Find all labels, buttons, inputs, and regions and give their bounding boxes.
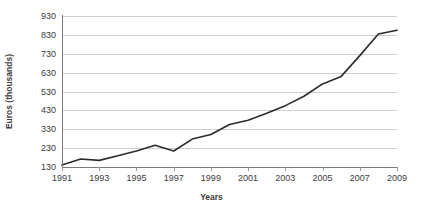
x-axis-tick-label: 1997 <box>164 173 184 183</box>
y-axis-tick-label: 630 <box>41 68 56 78</box>
x-axis-tick-label: 1993 <box>89 173 109 183</box>
x-axis-line <box>62 167 398 168</box>
x-axis-tick-mark <box>211 167 212 171</box>
x-axis-tick-mark <box>62 167 63 171</box>
x-axis-tick-mark <box>136 167 137 171</box>
x-axis-tick-mark <box>323 167 324 171</box>
x-axis-tick-label: 2009 <box>387 173 407 183</box>
x-axis-tick-label: 1991 <box>52 173 72 183</box>
y-axis-tick-label: 330 <box>41 124 56 134</box>
y-axis-tick-label: 930 <box>41 11 56 21</box>
x-axis-tick-mark <box>99 167 100 171</box>
x-axis-tick-mark <box>174 167 175 171</box>
x-axis-tick-label: 1995 <box>126 173 146 183</box>
x-axis-tick-mark <box>248 167 249 171</box>
x-axis-tick-mark <box>360 167 361 171</box>
y-axis-tick-label: 130 <box>41 162 56 172</box>
y-axis-tick-label: 530 <box>41 87 56 97</box>
y-axis-tick-labels: 930830730630530430330230130 <box>20 10 60 170</box>
y-axis-line <box>62 15 63 168</box>
x-axis-tick-label: 1999 <box>201 173 221 183</box>
x-axis-tick-label: 2007 <box>350 173 370 183</box>
y-axis-title-text: Euros (thousands) <box>4 54 14 129</box>
plot-area <box>62 16 397 167</box>
x-axis-tick-label: 2005 <box>313 173 333 183</box>
series-polyline <box>62 30 397 165</box>
y-axis-tick-label: 230 <box>41 143 56 153</box>
x-axis-tick-mark <box>397 167 398 171</box>
data-series-line <box>62 16 397 167</box>
x-axis-tick-label: 2003 <box>275 173 295 183</box>
y-axis-tick-label: 830 <box>41 30 56 40</box>
y-axis-title: Euros (thousands) <box>2 32 16 152</box>
y-axis-tick-label: 730 <box>41 49 56 59</box>
x-axis-title: Years <box>0 192 423 202</box>
x-axis-tick-mark <box>285 167 286 171</box>
y-axis-tick-label: 430 <box>41 105 56 115</box>
x-axis-tick-label: 2001 <box>238 173 258 183</box>
line-chart: Euros (thousands) 9308307306305304303302… <box>0 0 423 216</box>
